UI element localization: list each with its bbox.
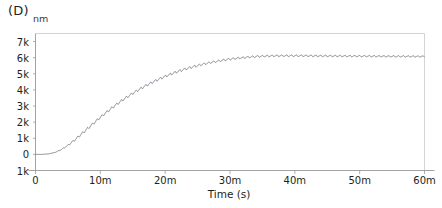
axis-ticks (33, 42, 425, 174)
data-series (36, 55, 425, 155)
axes (29, 34, 435, 171)
series-line-displacement (36, 55, 425, 155)
figure-panel-d: (D) nm 7k6k5k4k3k2k1k01k 010m20m30m40m50… (0, 0, 442, 208)
plot-area (0, 0, 442, 208)
